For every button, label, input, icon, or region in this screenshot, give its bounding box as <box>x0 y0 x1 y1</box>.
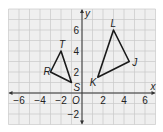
vertex-label-s: S <box>74 82 81 93</box>
vertex-label-j: J <box>131 57 138 68</box>
vertex-label-t: T <box>59 39 66 50</box>
x-tick-label: −2 <box>55 95 67 106</box>
y-tick-label: 2 <box>73 67 79 78</box>
x-tick-label: 6 <box>142 95 148 106</box>
vertex-label-r: R <box>44 66 51 77</box>
coordinate-plane: −6−4−2246642−2 RSTJKL x y O <box>0 0 163 132</box>
y-tick-label: 6 <box>73 25 79 36</box>
vertex-label-l: L <box>111 18 117 29</box>
origin-label: O <box>72 95 80 106</box>
x-tick-label: −6 <box>13 95 25 106</box>
x-tick-label: −4 <box>34 95 46 106</box>
x-tick-label: 2 <box>100 95 106 106</box>
y-tick-label: −2 <box>68 109 80 120</box>
y-tick-label: 4 <box>73 46 79 57</box>
x-axis-label: x <box>150 81 157 92</box>
y-axis-label: y <box>84 8 91 19</box>
x-tick-label: 4 <box>121 95 127 106</box>
